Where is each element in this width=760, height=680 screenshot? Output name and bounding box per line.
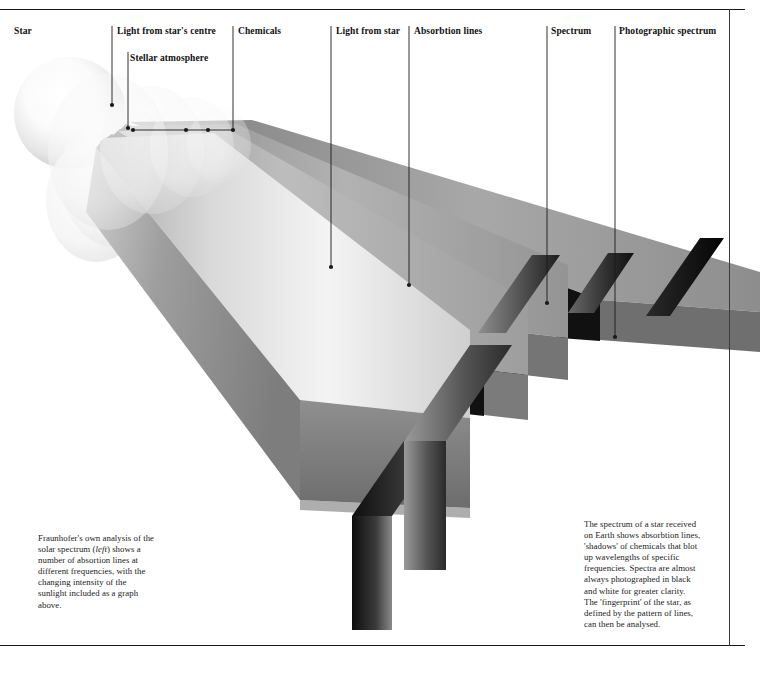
caption-line: The spectrum of a star received	[584, 519, 734, 530]
page-rule-bottom	[0, 645, 745, 646]
leader-photographic-spectrum	[613, 26, 617, 339]
caption-line: Fraunhofer's own analysis of the	[38, 533, 196, 544]
label-spectrum: Spectrum	[551, 26, 591, 37]
leader-light-from-star	[329, 26, 333, 269]
caption-line: up wavelengths of specific	[584, 552, 734, 563]
caption-line: The 'fingerprint' of the star, as	[584, 597, 734, 608]
caption-line: sunlight included as a graph	[38, 588, 196, 599]
caption-line: above.	[38, 600, 196, 611]
caption-line: different frequencies, with the	[38, 566, 196, 577]
label-stellar-atmosphere: Stellar atmosphere	[130, 53, 208, 64]
label-light-from-stars-centre: Light from star's centre	[117, 26, 216, 37]
page-rule-top	[0, 9, 745, 10]
caption-line: solar spectrum (left) shows a	[38, 544, 196, 555]
caption-line: always photographed in black	[584, 574, 734, 585]
caption-right: The spectrum of a star receivedon Earth …	[584, 519, 734, 630]
page-canvas: Star Light from star's centre Stellar at…	[0, 0, 760, 680]
label-photographic-spectrum: Photographic spectrum	[619, 26, 716, 37]
caption-line: can then be analysed.	[584, 619, 734, 630]
caption-left: Fraunhofer's own analysis of thesolar sp…	[38, 533, 196, 611]
leader-light-from-centre	[110, 26, 114, 107]
caption-line: 'shadows' of chemicals that blot	[584, 541, 734, 552]
label-absorbtion-lines: Absorbtion lines	[414, 26, 482, 37]
caption-line: defined by the pattern of lines,	[584, 608, 734, 619]
label-star: Star	[14, 26, 32, 37]
caption-line: and white for greater clarity.	[584, 586, 734, 597]
leader-absorbtion-lines	[407, 26, 411, 287]
caption-line: on Earth shows absorbtion lines,	[584, 530, 734, 541]
label-chemicals: Chemicals	[238, 26, 281, 37]
caption-line: frequencies. Spectra are almost	[584, 563, 734, 574]
leader-spectrum	[545, 26, 549, 305]
leader-chemicals	[131, 26, 235, 132]
caption-line: changing intensity of the	[38, 577, 196, 588]
caption-line: number of absortion lines at	[38, 555, 196, 566]
label-light-from-star: Light from star	[336, 26, 400, 37]
